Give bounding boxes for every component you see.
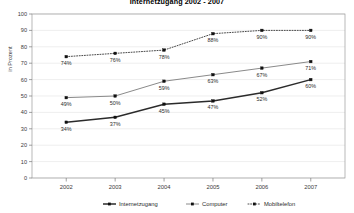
- svg-text:90%: 90%: [256, 34, 267, 40]
- svg-text:Computer: Computer: [202, 201, 228, 207]
- svg-text:50%: 50%: [110, 100, 121, 106]
- svg-text:Internetzugang: Internetzugang: [119, 201, 158, 207]
- svg-text:63%: 63%: [208, 78, 219, 84]
- svg-text:78%: 78%: [159, 54, 170, 60]
- svg-text:90: 90: [21, 27, 27, 33]
- svg-text:71%: 71%: [305, 65, 316, 71]
- svg-text:67%: 67%: [256, 72, 267, 78]
- x-axis-ticks: 200220032004200520062007: [60, 178, 317, 190]
- svg-text:37%: 37%: [110, 121, 121, 127]
- svg-text:49%: 49%: [61, 101, 72, 107]
- svg-text:90%: 90%: [305, 34, 316, 40]
- gridlines: [32, 14, 345, 178]
- svg-text:45%: 45%: [159, 108, 170, 114]
- svg-text:50: 50: [21, 93, 27, 99]
- chart-legend: InternetzugangComputerMobiltelefon: [103, 201, 295, 207]
- svg-text:74%: 74%: [61, 60, 72, 66]
- svg-text:47%: 47%: [208, 104, 219, 110]
- svg-text:34%: 34%: [61, 126, 72, 132]
- svg-text:2003: 2003: [109, 184, 122, 190]
- svg-text:70: 70: [21, 60, 27, 66]
- svg-text:60%: 60%: [305, 83, 316, 89]
- svg-text:60: 60: [21, 77, 27, 83]
- svg-text:76%: 76%: [110, 57, 121, 63]
- svg-text:100: 100: [18, 11, 27, 17]
- svg-text:88%: 88%: [208, 37, 219, 43]
- svg-text:80: 80: [21, 44, 27, 50]
- svg-text:20: 20: [21, 142, 27, 148]
- svg-text:52%: 52%: [256, 96, 267, 102]
- svg-text:59%: 59%: [159, 85, 170, 91]
- svg-text:2007: 2007: [304, 184, 317, 190]
- data-series-layer: [65, 29, 312, 123]
- svg-text:2005: 2005: [207, 184, 220, 190]
- svg-text:40: 40: [21, 109, 27, 115]
- svg-text:2004: 2004: [158, 184, 172, 190]
- svg-text:2006: 2006: [255, 184, 268, 190]
- y-axis-ticks: 0102030405060708090100: [18, 11, 32, 181]
- data-point-labels: 34%37%45%47%52%60%49%50%59%63%67%71%74%7…: [61, 34, 317, 132]
- plot-area: 0102030405060708090100 20022003200420052…: [0, 0, 354, 213]
- chart-container: Internetzugang 2002 - 2007 in Prozent 01…: [0, 0, 354, 213]
- svg-text:2002: 2002: [60, 184, 73, 190]
- svg-text:10: 10: [21, 159, 27, 165]
- svg-text:Mobiltelefon: Mobiltelefon: [264, 201, 295, 207]
- svg-text:0: 0: [24, 175, 27, 181]
- svg-text:30: 30: [21, 126, 27, 132]
